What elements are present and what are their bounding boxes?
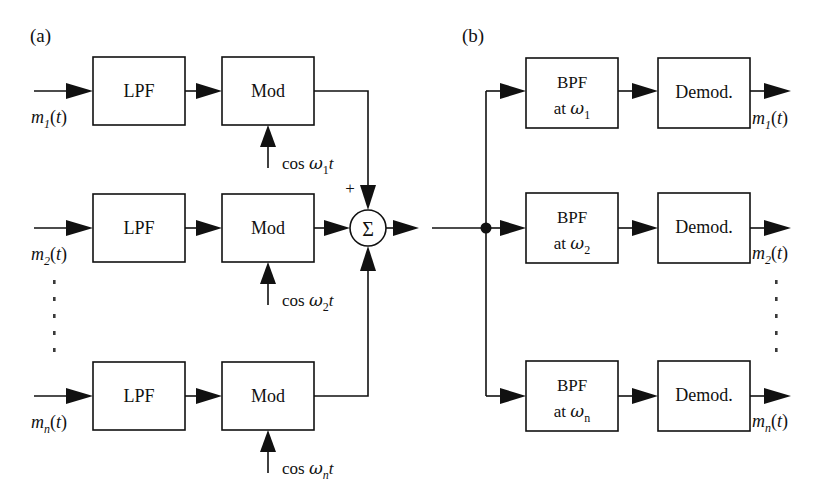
panel-b-row-2: BPF at ω2 Demod. m2(t) bbox=[486, 193, 791, 267]
input-arrowhead-1 bbox=[66, 83, 93, 99]
demod-label-2: Demod. bbox=[675, 217, 733, 237]
bpf-omega-3: ω bbox=[570, 401, 584, 421]
bpf-label-3: BPF bbox=[557, 376, 587, 395]
bpf-input-arrowhead-3 bbox=[500, 388, 526, 404]
panel-a: (a) m1(t) LPF Mod cos ω bbox=[30, 25, 419, 482]
input-label-3: mn(t) bbox=[31, 412, 67, 436]
bpf-sub-1: 1 bbox=[584, 108, 590, 122]
lpf-label-3: LPF bbox=[123, 386, 154, 406]
output-label-3: mn(t) bbox=[752, 411, 788, 435]
bpf-at-prefix-3: at bbox=[554, 402, 571, 421]
bpf-input-arrowhead-1 bbox=[500, 83, 526, 99]
carrier-tail-1: t bbox=[329, 154, 335, 173]
panel-b: (b) BPF at ω1 Demod. m1(t) bbox=[432, 25, 791, 435]
bpf-sub-3: n bbox=[584, 411, 590, 425]
carrier-arrowhead-3 bbox=[260, 430, 276, 452]
bpf-at-prefix-2: at bbox=[554, 234, 571, 253]
carrier-prefix-1: cos bbox=[282, 154, 309, 173]
input-label-3-base: m bbox=[31, 412, 44, 432]
lpf-to-mod-arrowhead-3 bbox=[196, 388, 222, 404]
output-label-2: m2(t) bbox=[752, 243, 788, 267]
bpf-omega-2: ω bbox=[570, 233, 584, 253]
demod-label-1: Demod. bbox=[675, 82, 733, 102]
carrier-prefix-3: cos bbox=[282, 459, 309, 478]
panel-a-row-1: m1(t) LPF Mod cos ω1t bbox=[31, 57, 376, 210]
input-label-2-base: m bbox=[31, 244, 44, 264]
input-label-2: m2(t) bbox=[31, 244, 67, 268]
bpf-at-prefix-1: at bbox=[554, 99, 571, 118]
carrier-label-3: cos ωnt bbox=[282, 458, 335, 482]
carrier-arrowhead-1 bbox=[260, 125, 276, 147]
carrier-label-1: cos ω1t bbox=[282, 153, 335, 177]
bpf-to-demod-arrowhead-1 bbox=[632, 83, 658, 99]
panel-b-ellipsis bbox=[775, 280, 778, 352]
lpf-label-1: LPF bbox=[123, 81, 154, 101]
bpf-to-demod-arrowhead-3 bbox=[632, 388, 658, 404]
carrier-tail-3: t bbox=[329, 459, 335, 478]
output-label-1-base: m bbox=[752, 108, 765, 128]
demod-output-arrowhead-3 bbox=[764, 388, 791, 404]
lpf-to-mod-arrowhead-2 bbox=[196, 220, 222, 236]
summer-output-arrowhead bbox=[393, 220, 419, 236]
carrier-label-2: cos ω2t bbox=[282, 290, 335, 314]
panel-b-row-3: BPF at ωn Demod. mn(t) bbox=[486, 361, 791, 435]
bpf-to-demod-arrowhead-2 bbox=[632, 220, 658, 236]
output-label-2-base: m bbox=[752, 243, 765, 263]
lpf-label-2: LPF bbox=[123, 218, 154, 238]
summer-input-arrowhead-1 bbox=[360, 185, 376, 210]
panel-a-ellipsis bbox=[53, 280, 56, 352]
carrier-tail-2: t bbox=[329, 291, 335, 310]
carrier-omega-1: ω bbox=[309, 153, 323, 173]
mod-label-1: Mod bbox=[251, 81, 285, 101]
bpf-input-arrowhead-2 bbox=[500, 220, 526, 236]
figure-container: (a) m1(t) LPF Mod cos ω bbox=[0, 0, 836, 495]
summer-input-arrowhead-2 bbox=[324, 220, 350, 236]
panel-b-row-1: BPF at ω1 Demod. m1(t) bbox=[486, 58, 791, 132]
panel-a-label: (a) bbox=[30, 25, 51, 47]
demod-label-3: Demod. bbox=[675, 385, 733, 405]
bpf-label-2: BPF bbox=[557, 208, 587, 227]
lpf-to-mod-arrowhead-1 bbox=[196, 83, 222, 99]
mod-label-2: Mod bbox=[251, 218, 285, 238]
mod-label-3: Mod bbox=[251, 386, 285, 406]
carrier-omega-2: ω bbox=[309, 290, 323, 310]
carrier-arrowhead-2 bbox=[260, 262, 276, 284]
demod-output-arrowhead-2 bbox=[764, 220, 791, 236]
summer-sigma-glyph: Σ bbox=[362, 218, 374, 240]
bpf-sub-2: 2 bbox=[584, 243, 590, 257]
carrier-prefix-2: cos bbox=[282, 291, 309, 310]
panel-b-label: (b) bbox=[462, 25, 484, 47]
input-label-1-base: m bbox=[31, 107, 44, 127]
block-diagram-svg: (a) m1(t) LPF Mod cos ω bbox=[0, 0, 836, 495]
demod-output-arrowhead-1 bbox=[764, 83, 791, 99]
panel-a-row-2: m2(t) LPF Mod cos ω2t bbox=[31, 194, 350, 314]
output-label-1: m1(t) bbox=[752, 108, 788, 132]
panel-a-row-3: mn(t) LPF Mod cos ωnt bbox=[31, 246, 376, 482]
mod-out-path-3 bbox=[314, 265, 368, 396]
input-label-1: m1(t) bbox=[31, 107, 67, 131]
input-arrowhead-3 bbox=[66, 388, 93, 404]
output-label-3-base: m bbox=[752, 411, 765, 431]
input-arrowhead-2 bbox=[66, 220, 93, 236]
summer-input-arrowhead-3 bbox=[360, 246, 376, 271]
carrier-omega-3: ω bbox=[309, 458, 323, 478]
bpf-label-1: BPF bbox=[557, 73, 587, 92]
bpf-omega-1: ω bbox=[570, 98, 584, 118]
summer-plus-sign: + bbox=[345, 179, 355, 198]
